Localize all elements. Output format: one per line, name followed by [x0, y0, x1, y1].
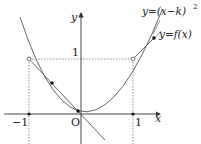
parabola-label: y=(x−k) — [141, 5, 186, 17]
y-axis-label: y — [70, 11, 78, 24]
y-tick1-label: 1 — [72, 46, 79, 59]
open-point-pos1 — [131, 57, 135, 61]
x-tick-pos1-label: 1 — [135, 116, 142, 129]
x-tick-neg1-label: −1 — [12, 116, 28, 129]
parabola-label-exponent: 2 — [193, 3, 197, 11]
f-label: y=f(x) — [158, 28, 192, 40]
x-axis-label: x — [155, 112, 162, 125]
parabola-curve — [20, 10, 162, 112]
f-left-segment — [29, 59, 105, 140]
tangent-point-left — [50, 81, 54, 85]
open-point-neg1 — [27, 57, 31, 61]
function-graph: x y O −1 1 1 y=(x−k) 2 y=f(x) — [0, 0, 201, 144]
origin-label: O — [71, 116, 80, 129]
f-right-segment — [133, 38, 154, 59]
point-near-origin — [76, 109, 80, 113]
point-upper-right — [152, 36, 156, 40]
